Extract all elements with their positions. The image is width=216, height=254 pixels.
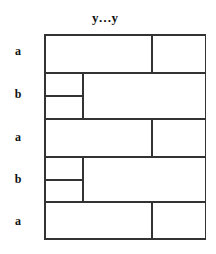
row-sep-4 (44, 201, 206, 203)
outer-top (44, 34, 206, 36)
row-label-3: a (12, 130, 24, 145)
outer-bottom (44, 238, 206, 240)
row-b2-split (44, 179, 83, 181)
row-a3-divider (151, 201, 153, 239)
row-label-1: a (12, 44, 24, 59)
row-sep-2 (44, 118, 206, 120)
row-label-5: a (12, 214, 24, 229)
row-label-4: b (12, 172, 24, 187)
row-sep-1 (44, 72, 206, 74)
diagram-title: y…y (80, 10, 130, 26)
row-sep-3 (44, 156, 206, 158)
row-a2-divider (151, 118, 153, 157)
outer-right (205, 34, 207, 239)
row-b1-split (44, 95, 83, 97)
outer-left (44, 34, 46, 239)
row-a1-divider (151, 34, 153, 73)
row-label-2: b (12, 87, 24, 102)
